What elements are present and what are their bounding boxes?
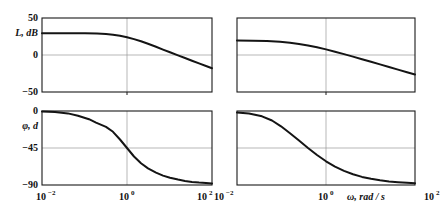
- xtick-left-start: 10: [36, 191, 46, 202]
- ytick-mag-50: 50: [28, 12, 38, 23]
- xtick-left-end: 10: [197, 191, 207, 202]
- ylabel-magnitude: L, dB: [14, 27, 38, 38]
- xtick-right-end: 10: [424, 191, 434, 202]
- ytick-ph-neg90: −90: [22, 179, 38, 190]
- xlabel-omega: ω, rad / s: [347, 191, 385, 202]
- xtick-left-start-exp: −2: [48, 189, 56, 197]
- xlabel-group: ω, rad / s: [347, 191, 385, 202]
- panel-phase-left: [42, 111, 212, 185]
- ytick-ph-neg45: −45: [22, 142, 38, 153]
- xtick-right-start: 10: [214, 191, 224, 202]
- ylabel-phase: φ, d: [22, 120, 39, 131]
- bode-plot-figure: 50 0 −50 L, dB 0 −45 −90 φ, d: [0, 0, 446, 209]
- xtick-left-mid: 10: [119, 191, 129, 202]
- panel-phase-right: [237, 111, 415, 185]
- xtick-right-start-exp: −2: [226, 189, 234, 197]
- ytick-ph-0: 0: [33, 105, 38, 116]
- xticks-phase-left-labels: 10 −2 10 0 10 2: [36, 189, 213, 202]
- xtick-right-mid-exp: 0: [330, 189, 334, 197]
- panel-magnitude-left: [42, 18, 212, 92]
- yticks-magnitude-left: 50 0 −50 L, dB: [14, 12, 38, 97]
- ytick-mag-neg50: −50: [22, 86, 38, 97]
- ytick-mag-0: 0: [33, 49, 38, 60]
- yticks-phase-left: 0 −45 −90 φ, d: [22, 105, 39, 190]
- xtick-left-end-exp: 2: [209, 189, 213, 197]
- bode-plot-canvas: 50 0 −50 L, dB 0 −45 −90 φ, d: [0, 0, 446, 209]
- xtick-left-mid-exp: 0: [131, 189, 135, 197]
- panel-magnitude-right: [237, 18, 415, 92]
- xticks-phase-right-labels: 10 −2 10 0 10 2: [214, 189, 440, 202]
- xtick-right-end-exp: 2: [436, 189, 440, 197]
- xtick-right-mid: 10: [318, 191, 328, 202]
